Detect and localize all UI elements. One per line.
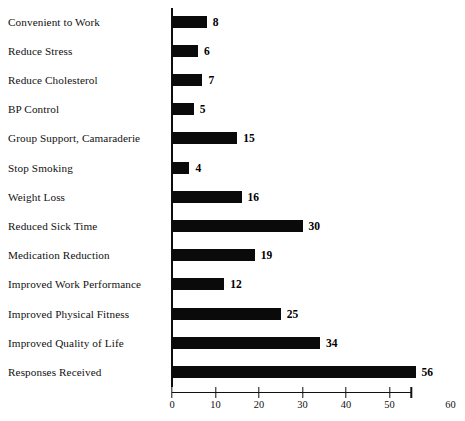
category-label: BP Control [8,103,59,115]
bar-value-label: 56 [422,366,434,378]
bar-row[interactable]: Weight Loss16 [0,182,465,211]
bar-rect[interactable] [172,16,207,28]
bar-value-label: 5 [200,103,206,115]
x-axis: 0102030405060 [0,387,465,421]
category-label: Group Support, Camaraderie [8,132,140,144]
bar-track: 16 [172,191,259,203]
bar-row[interactable]: Stop Smoking4 [0,153,465,182]
category-label: Stop Smoking [8,162,73,174]
bar-track: 30 [172,220,320,232]
bar-value-label: 30 [309,220,321,232]
category-label: Weight Loss [8,191,65,203]
category-label: Improved Work Performance [8,278,141,290]
x-axis-tick [411,387,412,398]
bar-rect[interactable] [172,74,202,86]
bar-value-label: 34 [326,337,338,349]
category-label: Improved Physical Fitness [8,308,129,320]
bar-track: 7 [172,74,214,86]
bar-row[interactable]: Medication Reduction19 [0,241,465,270]
category-label: Reduce Cholesterol [8,74,98,86]
category-label: Medication Reduction [8,249,110,261]
bar-rect[interactable] [172,337,320,349]
x-axis-tick [215,387,216,398]
x-axis-tick [389,387,390,398]
bar-track: 4 [172,162,201,174]
bar-track: 8 [172,16,219,28]
category-label: Responses Received [8,366,101,378]
bar-rect[interactable] [172,103,194,115]
bar-row[interactable]: Group Support, Camaraderie15 [0,124,465,153]
bar-rect[interactable] [172,162,189,174]
bar-value-label: 19 [261,249,273,261]
bar-rect[interactable] [172,308,281,320]
bar-track: 19 [172,249,272,261]
bar-rect[interactable] [172,132,237,144]
bar-rect[interactable] [172,191,242,203]
x-axis-tick-label: 30 [297,399,307,411]
x-axis-tick-label: 10 [210,399,220,411]
bar-track: 5 [172,103,206,115]
x-axis-tick [171,387,172,398]
bar-track: 15 [172,132,255,144]
x-axis-tick-label: 60 [445,399,455,411]
bar-value-label: 4 [195,162,201,174]
bar-row[interactable]: Reduce Stress6 [0,36,465,65]
plot-area: Convenient to Work8Reduce Stress6Reduce … [0,0,465,421]
bar-row[interactable]: Reduced Sick Time30 [0,211,465,240]
x-axis-tick-label: 50 [384,399,394,411]
bar-value-label: 15 [243,132,255,144]
bar-row[interactable]: Improved Work Performance12 [0,270,465,299]
bar-value-label: 7 [208,74,214,86]
bar-row[interactable]: Reduce Cholesterol7 [0,65,465,94]
bar-row[interactable]: Improved Physical Fitness25 [0,299,465,328]
x-axis-tick-label: 0 [169,399,174,411]
bar-value-label: 6 [204,45,210,57]
bar-rect[interactable] [172,45,198,57]
bar-value-label: 8 [213,16,219,28]
category-label: Reduce Stress [8,45,72,57]
x-axis-tick [345,387,346,398]
bar-value-label: 25 [287,308,299,320]
bar-track: 34 [172,337,337,349]
bar-rect[interactable] [172,249,255,261]
bar-row[interactable]: Responses Received56 [0,357,465,386]
x-axis-tick-label: 40 [341,399,351,411]
bar-rect[interactable] [172,366,416,378]
category-label: Convenient to Work [8,16,100,28]
bar-track: 12 [172,278,242,290]
category-label: Reduced Sick Time [8,220,97,232]
bar-value-label: 16 [248,191,260,203]
category-label: Improved Quality of Life [8,337,124,349]
bar-track: 56 [172,366,433,378]
bar-rect[interactable] [172,278,224,290]
bar-row[interactable]: Improved Quality of Life34 [0,328,465,357]
x-axis-line [172,392,411,393]
bar-row[interactable]: Convenient to Work8 [0,7,465,36]
bar-value-label: 12 [230,278,242,290]
x-axis-tick-label: 20 [254,399,264,411]
bar-track: 6 [172,45,210,57]
x-axis-tick [258,387,259,398]
bar-rect[interactable] [172,220,303,232]
bar-row[interactable]: BP Control5 [0,95,465,124]
x-axis-tick [302,387,303,398]
bar-track: 25 [172,308,298,320]
bar-chart: Convenient to Work8Reduce Stress6Reduce … [0,0,465,421]
